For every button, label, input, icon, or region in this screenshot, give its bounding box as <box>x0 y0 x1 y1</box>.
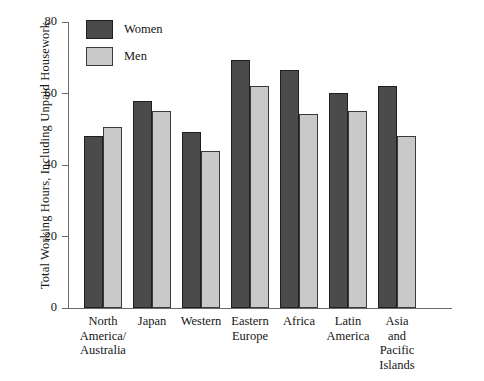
x-axis-label: AsiaandPacificIslands <box>366 314 428 372</box>
y-axis-tick <box>62 22 69 23</box>
bar-men <box>201 151 220 308</box>
bar-women <box>182 132 201 308</box>
y-axis-title: Total Working Hours, Including Unpaid Ho… <box>38 6 53 306</box>
y-axis-tick-label: 40 <box>0 158 57 171</box>
x-axis-label-line: Islands <box>366 358 428 373</box>
legend-label-men: Men <box>124 49 147 64</box>
x-axis-label-line: Pacific <box>366 343 428 358</box>
x-axis-label-line: and <box>366 329 428 344</box>
y-axis-tick-label: 80 <box>0 15 57 28</box>
x-axis-label-line: Europe <box>219 329 281 344</box>
bar-women <box>280 70 299 308</box>
x-axis-line <box>68 308 452 309</box>
legend-label-women: Women <box>124 22 163 37</box>
y-axis-tick-label: 60 <box>0 87 57 100</box>
bar-men <box>397 136 416 308</box>
bar-chart: Total Working Hours, Including Unpaid Ho… <box>0 0 484 381</box>
x-axis-label-line: Australia <box>72 343 134 358</box>
y-axis-tick <box>62 165 69 166</box>
x-axis-label-line: Asia <box>366 314 428 329</box>
bar-women <box>133 101 152 308</box>
bar-men <box>250 86 269 308</box>
bar-men <box>152 111 171 308</box>
bar-men <box>348 111 367 308</box>
y-axis-tick <box>62 93 69 94</box>
x-axis-label-line: America/ <box>72 329 134 344</box>
bar-men <box>299 114 318 308</box>
y-axis-tick <box>62 308 69 309</box>
y-axis-tick <box>62 236 69 237</box>
y-axis-tick-label: 20 <box>0 230 57 243</box>
bar-women <box>329 93 348 308</box>
legend-swatch-women-icon <box>86 20 113 39</box>
bar-men <box>103 127 122 308</box>
bar-women <box>84 136 103 308</box>
y-axis-line <box>68 22 69 309</box>
y-axis-tick-label: 0 <box>0 301 57 314</box>
legend-swatch-men-icon <box>86 47 113 66</box>
bar-women <box>378 86 397 308</box>
bar-women <box>231 60 250 308</box>
